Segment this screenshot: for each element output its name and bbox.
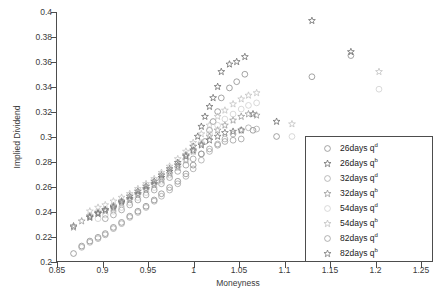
y-tick-label: 0.36 (35, 57, 52, 67)
marker-circle (289, 134, 295, 140)
marker-star (214, 113, 221, 119)
marker-circle (234, 79, 240, 85)
marker-star (230, 117, 237, 123)
y-tick-label: 0.38 (35, 32, 52, 42)
marker-circle (238, 106, 244, 112)
legend-label: 26days qb (340, 157, 378, 168)
marker-star (221, 122, 228, 128)
marker-star (376, 68, 383, 74)
x-tick-label: 1.25 (413, 265, 430, 275)
marker-star (221, 107, 228, 113)
marker-circle (198, 157, 204, 163)
marker-circle (254, 126, 260, 132)
marker-star (206, 122, 213, 128)
x-tick-label: 1.15 (322, 265, 339, 275)
marker-star (206, 103, 213, 109)
y-tick-label: 0.26 (35, 182, 52, 192)
x-tick-label: 0.85 (49, 265, 66, 275)
marker-star (226, 61, 233, 67)
marker-star (102, 206, 109, 212)
y-tick-label: 0.4 (40, 7, 52, 17)
marker-circle (198, 151, 204, 157)
figure: 0.20.220.240.260.280.30.320.340.360.380.… (0, 0, 442, 297)
x-tick-label: 1.2 (370, 265, 382, 275)
marker-star (206, 137, 213, 143)
legend[interactable]: 26days qd26days qb32days qd32days qb54da… (305, 136, 433, 262)
x-tick-label: 0.9 (97, 265, 109, 275)
x-tick-label: 1 (191, 265, 196, 275)
marker-circle (274, 134, 280, 140)
legend-label: 82days qb (340, 247, 378, 258)
marker-star (230, 101, 237, 107)
marker-star (273, 118, 280, 124)
marker-star (78, 218, 85, 224)
y-tick-label: 0.34 (35, 82, 52, 92)
marker-star (202, 113, 209, 119)
marker-circle (111, 212, 117, 218)
marker-star (221, 129, 228, 135)
marker-star (198, 130, 205, 136)
marker-star (214, 133, 221, 139)
series-32days-q-d (79, 125, 260, 250)
marker-circle (254, 100, 260, 106)
marker-circle (238, 136, 244, 142)
y-tick-label: 0.3 (40, 132, 52, 142)
marker-circle (242, 71, 248, 77)
marker-star (218, 68, 225, 74)
y-tick-label: 0.32 (35, 107, 52, 117)
marker-circle (102, 216, 108, 222)
marker-star (241, 53, 248, 59)
marker-circle (246, 125, 252, 131)
marker-star (190, 147, 197, 153)
marker-star (245, 92, 252, 98)
y-axis-label: Implied Dividend (12, 12, 24, 262)
marker-star (238, 113, 245, 119)
marker-star (198, 123, 205, 129)
marker-star (210, 94, 217, 100)
legend-label: 54days qd (340, 202, 378, 213)
x-tick-label: 1.1 (279, 265, 291, 275)
series-82days-q-d (102, 136, 244, 221)
marker-circle (309, 74, 315, 80)
legend-label: 54days qb (340, 217, 378, 228)
legend-label: 26days qd (340, 142, 378, 153)
legend-label: 32days qd (340, 172, 378, 183)
x-axis-label: Moneyness (56, 278, 420, 288)
legend-label: 32days qb (340, 187, 378, 198)
marker-star (214, 83, 221, 89)
legend-item[interactable]: 82days qb (306, 245, 432, 260)
legend-label: 82days qd (340, 232, 378, 243)
marker-star (233, 58, 240, 64)
marker-circle (71, 251, 77, 257)
star-marker-icon (314, 244, 340, 262)
marker-circle (190, 156, 196, 162)
y-tick-label: 0.24 (35, 207, 52, 217)
marker-circle (230, 137, 236, 143)
marker-circle (227, 85, 233, 91)
marker-circle (376, 86, 382, 92)
marker-star (238, 96, 245, 102)
y-tick-label: 0.22 (35, 232, 52, 242)
marker-circle (190, 166, 196, 172)
marker-circle (246, 102, 252, 108)
marker-star (289, 120, 296, 126)
x-tick-label: 0.95 (140, 265, 157, 275)
x-tick-label: 1.05 (231, 265, 248, 275)
marker-star (309, 17, 316, 23)
marker-circle (218, 95, 224, 101)
y-tick-label: 0.28 (35, 157, 52, 167)
marker-star (253, 89, 260, 95)
